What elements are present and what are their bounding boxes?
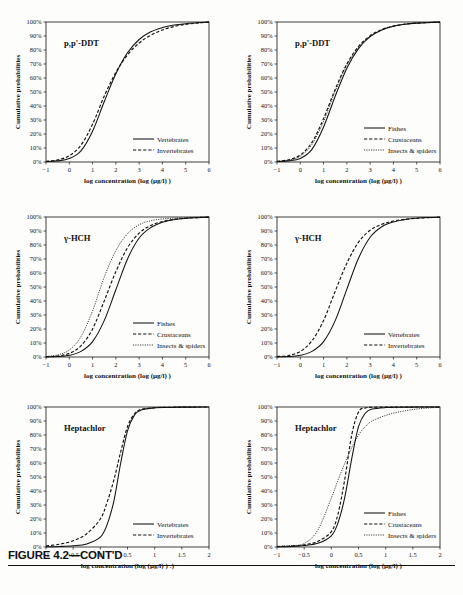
x-tick-label: 5 xyxy=(415,166,418,173)
x-axis-title: log concentration (log (µg/l) ) xyxy=(84,177,172,185)
x-tick-label: 4 xyxy=(392,166,396,173)
x-tick-label: −1 xyxy=(274,166,281,173)
y-axis-title: Cumulative probabilities xyxy=(14,440,22,515)
y-tick-label: 100% xyxy=(27,403,43,410)
y-axis-title: Cumulative probabilities xyxy=(14,55,22,130)
x-tick-label: 2 xyxy=(114,166,117,173)
legend: VertebratesInvertebrates xyxy=(133,136,194,155)
y-tick-label: 30% xyxy=(30,311,42,318)
x-axis-title: log concentration (log (µg/l) ) xyxy=(315,177,403,185)
y-axis-title: Cumulative probabilities xyxy=(245,55,253,130)
legend-label: Fishes xyxy=(157,320,175,328)
y-tick-label: 40% xyxy=(261,297,273,304)
y-tick-label: 30% xyxy=(30,501,42,508)
x-tick-label: 4 xyxy=(161,166,165,173)
x-tick-label: −1 xyxy=(274,361,281,368)
y-tick-label: 50% xyxy=(30,473,42,480)
legend-label: Fishes xyxy=(388,125,406,133)
y-tick-label: 0% xyxy=(33,353,42,360)
y-tick-label: 80% xyxy=(30,46,42,53)
legend: FishesCrustaceansInsects & spiders xyxy=(364,125,436,155)
panel-title: p,p'-DDT xyxy=(64,38,99,48)
x-tick-label: 0 xyxy=(299,166,302,173)
y-tick-label: 50% xyxy=(30,88,42,95)
y-tick-label: 50% xyxy=(261,88,273,95)
x-tick-label: 6 xyxy=(438,361,441,368)
x-tick-label: 0 xyxy=(68,166,71,173)
x-tick-label: −1 xyxy=(43,166,50,173)
y-tick-label: 70% xyxy=(261,255,273,262)
y-tick-label: 100% xyxy=(258,213,274,220)
x-tick-label: 6 xyxy=(207,361,210,368)
caption-divider-rule xyxy=(8,565,455,566)
y-tick-label: 40% xyxy=(261,487,273,494)
y-axis-title: Cumulative probabilities xyxy=(245,250,253,325)
y-tick-label: 70% xyxy=(30,445,42,452)
y-tick-label: 40% xyxy=(30,102,42,109)
y-tick-label: 90% xyxy=(261,417,273,424)
y-tick-label: 100% xyxy=(27,213,43,220)
legend: FishesCrustaceansInsects & spiders xyxy=(364,510,436,540)
legend-label: Invertebrates xyxy=(157,532,194,540)
x-axis-title: log concentration (log (µg/l) ) xyxy=(84,372,172,380)
y-tick-label: 80% xyxy=(261,431,273,438)
x-tick-label: 6 xyxy=(438,166,441,173)
y-tick-label: 0% xyxy=(33,158,42,165)
legend-label: Vertebrates xyxy=(388,331,420,339)
y-tick-label: 60% xyxy=(30,269,42,276)
y-tick-label: 10% xyxy=(261,339,273,346)
x-tick-label: 2 xyxy=(345,166,348,173)
y-tick-label: 60% xyxy=(261,74,273,81)
y-tick-label: 100% xyxy=(258,18,274,25)
legend-label: Vertebrates xyxy=(157,136,189,144)
x-tick-label: 3 xyxy=(369,361,372,368)
y-tick-label: 60% xyxy=(261,269,273,276)
chart-panel-ddt-three-groups: 0%10%20%30%40%50%60%70%80%90%100%−101234… xyxy=(231,8,462,203)
y-tick-label: 40% xyxy=(261,102,273,109)
y-tick-label: 10% xyxy=(30,339,42,346)
panel-title: p,p'-DDT xyxy=(295,38,330,48)
legend-label: Insects & spiders xyxy=(388,532,436,540)
y-tick-label: 10% xyxy=(30,144,42,151)
y-tick-label: 10% xyxy=(261,144,273,151)
chart-panel-hch-three-groups: 0%10%20%30%40%50%60%70%80%90%100%−101234… xyxy=(0,203,231,398)
y-axis-title: Cumulative probabilities xyxy=(245,440,253,515)
x-tick-label: −1 xyxy=(43,361,50,368)
legend-label: Crustaceans xyxy=(388,136,422,144)
y-tick-label: 100% xyxy=(258,403,274,410)
legend: FishesCrustaceansInsects & spiders xyxy=(133,320,205,350)
y-tick-label: 0% xyxy=(264,158,273,165)
chart-panel-ddt-vert-invert: 0%10%20%30%40%50%60%70%80%90%100%−101234… xyxy=(0,8,231,203)
chart-panel-hch-vert-invert: 0%10%20%30%40%50%60%70%80%90%100%−101234… xyxy=(231,203,462,398)
legend-label: Crustaceans xyxy=(388,521,422,529)
y-tick-label: 70% xyxy=(30,60,42,67)
y-tick-label: 90% xyxy=(261,227,273,234)
y-tick-label: 30% xyxy=(261,311,273,318)
y-tick-label: 70% xyxy=(30,255,42,262)
x-tick-label: 4 xyxy=(161,361,165,368)
panel-title: Heptachlor xyxy=(64,423,106,433)
x-tick-label: 3 xyxy=(138,361,141,368)
y-tick-label: 20% xyxy=(261,130,273,137)
x-tick-label: 3 xyxy=(138,166,141,173)
panel-title: Heptachlor xyxy=(295,423,337,433)
x-tick-label: 6 xyxy=(207,166,210,173)
y-tick-label: 20% xyxy=(30,515,42,522)
y-tick-label: 20% xyxy=(261,515,273,522)
figure-caption-text: FIGURE 4.2—CONT'D xyxy=(8,549,455,561)
y-tick-label: 100% xyxy=(27,18,43,25)
legend-label: Invertebrates xyxy=(157,147,194,155)
y-tick-label: 50% xyxy=(261,473,273,480)
x-tick-label: 5 xyxy=(415,361,418,368)
x-tick-label: 1 xyxy=(91,361,94,368)
x-tick-label: 0 xyxy=(68,361,71,368)
y-tick-label: 70% xyxy=(261,60,273,67)
x-tick-label: 3 xyxy=(369,166,372,173)
x-tick-label: 5 xyxy=(184,166,187,173)
legend-label: Insects & spiders xyxy=(388,147,436,155)
y-tick-label: 10% xyxy=(30,529,42,536)
x-tick-label: 2 xyxy=(114,361,117,368)
y-tick-label: 20% xyxy=(30,325,42,332)
y-tick-label: 10% xyxy=(261,529,273,536)
panel-title: γ-HCH xyxy=(63,233,91,243)
